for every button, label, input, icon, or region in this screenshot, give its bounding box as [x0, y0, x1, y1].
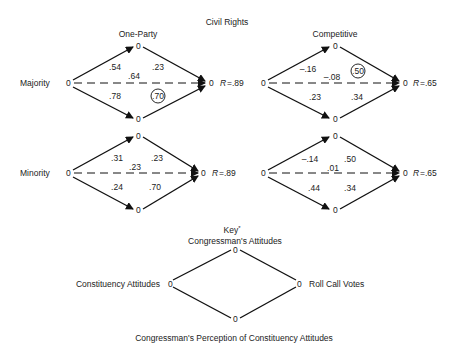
coef-ca-cp: –.14: [302, 154, 319, 164]
coef-cp-rc: .50: [344, 154, 356, 164]
key-node-bottom: 0: [233, 314, 238, 324]
coef-pp-rc: .70: [152, 91, 164, 101]
key-left-label: Constituency Attitudes: [76, 279, 160, 289]
key-diagram: Key* Congressman's Attitudes 0 0 0 0 Con…: [76, 225, 364, 343]
r-value: =.89: [219, 168, 236, 178]
coef-cp-rc: .23: [152, 62, 164, 72]
key-node-top: 0: [233, 245, 238, 255]
node-constituency: 0: [66, 78, 71, 88]
node-congressman-attitudes: 0: [333, 131, 338, 141]
diagram-majority-competitive: 0 0 0 0 –.16 .50 –.08 .23 .34 R =.65: [261, 41, 437, 124]
coef-pp-rc: .34: [344, 183, 356, 193]
node-constituency: 0: [261, 78, 266, 88]
coef-ca-pp: .23: [309, 92, 321, 102]
column-header-one-party: One-Party: [119, 29, 158, 39]
key-right-label: Roll Call Votes: [309, 279, 364, 289]
coef-ca-pp: .24: [111, 182, 123, 192]
node-perception: 0: [136, 114, 141, 124]
coef-ca-rc: .23: [129, 162, 141, 172]
r-label: R: [220, 78, 226, 88]
r-value: =.89: [227, 78, 244, 88]
node-roll-call: 0: [201, 168, 206, 178]
r-value: =.65: [420, 78, 437, 88]
coef-pp-rc: .70: [149, 182, 161, 192]
node-perception: 0: [333, 205, 338, 215]
node-roll-call: 0: [403, 78, 408, 88]
coef-ca-cp: .54: [109, 62, 121, 72]
coef-ca-pp: .78: [109, 91, 121, 101]
civil-rights-path-diagram: Civil Rights One-Party Competitive Major…: [0, 0, 455, 350]
node-roll-call: 0: [209, 78, 214, 88]
node-congressman-attitudes: 0: [136, 41, 141, 51]
node-congressman-attitudes: 0: [136, 131, 141, 141]
node-constituency: 0: [261, 168, 266, 178]
coef-ca-rc: –.08: [324, 72, 341, 82]
coef-ca-rc: .01: [327, 163, 339, 173]
key-node-right: 0: [297, 279, 302, 289]
key-title: Key*: [224, 225, 242, 235]
node-congressman-attitudes: 0: [333, 41, 338, 51]
column-header-competitive: Competitive: [313, 29, 358, 39]
coef-ca-cp: .31: [111, 153, 123, 163]
key-bottom-label: Congressman's Perception of Constituency…: [135, 333, 333, 343]
r-label: R: [413, 168, 419, 178]
chart-title: Civil Rights: [206, 17, 249, 27]
row-label-minority: Minority: [20, 168, 51, 178]
node-constituency: 0: [66, 168, 71, 178]
row-label-majority: Majority: [20, 78, 51, 88]
coef-cp-rc: .23: [151, 153, 163, 163]
diagram-majority-one-party: 0 0 0 0 .54 .23 .64 .78 .70 R =.89: [66, 41, 244, 124]
coef-ca-pp: .44: [308, 183, 320, 193]
diagram-minority-competitive: 0 0 0 0 –.14 .50 .01 .44 .34 R =.65: [261, 131, 437, 215]
node-perception: 0: [136, 205, 141, 215]
node-roll-call: 0: [403, 168, 408, 178]
coef-pp-rc: .34: [351, 92, 363, 102]
coef-ca-cp: –.16: [300, 64, 317, 74]
coef-cp-rc: .50: [352, 66, 364, 76]
r-label: R: [212, 168, 218, 178]
coef-ca-rc: .64: [128, 71, 140, 81]
key-node-left: 0: [168, 279, 173, 289]
r-value: =.65: [420, 168, 437, 178]
r-label: R: [413, 78, 419, 88]
node-perception: 0: [333, 114, 338, 124]
diagram-minority-one-party: 0 0 0 0 .31 .23 .23 .24 .70 R =.89: [66, 131, 236, 215]
